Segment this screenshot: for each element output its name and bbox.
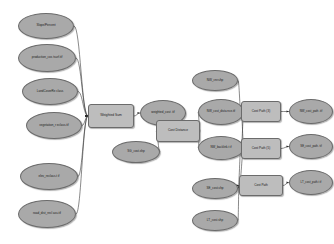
tool-node-n10[interactable]: Cost Distance [156,120,200,142]
connector-n1-to-n7 [74,26,88,116]
node-label: Cost Distance [160,129,197,132]
node-label: Cost Path [243,184,280,187]
node-label: NW_backlink.t if [202,146,241,149]
node-label: NW_cost_dista nce.tif [202,110,241,113]
model-diagram-canvas: Slope/Percentproduction_cos tsurf.tifLan… [0,0,334,244]
node-label: LT_cost_path.t if [293,181,330,184]
connector-n17-to-n20 [281,147,289,149]
data-node-n4[interactable]: vegetation_r eclass.tif [26,112,82,139]
node-label: SE_cost_path. tif [293,145,330,148]
data-node-n1[interactable]: Slope/Percent [18,13,74,39]
data-node-n21[interactable]: LT_cost_path.t if [289,170,333,195]
node-label: Weighted Sum [92,114,131,117]
node-label: road_dist_recl ass.tif [22,212,72,215]
node-label: elev_reclass.t if [24,175,74,178]
data-node-n20[interactable]: SE_cost_path. tif [289,134,333,159]
node-label: LandCoverRe class [26,90,74,93]
data-node-n11[interactable]: NW_cost_dista nce.tif [198,99,244,125]
data-node-n19[interactable]: NW_cost_path .tif [289,99,333,124]
data-node-n2[interactable]: production_cos tsurf.tif [18,44,76,72]
node-label: NW_cnr.shp [196,79,235,82]
data-node-n5[interactable]: elev_reclass.t if [20,163,78,190]
data-node-n14[interactable]: SE_cost.shp [192,178,238,199]
connector-n2-to-n7 [76,58,88,116]
node-label: SE_cost.shp [196,187,235,190]
node-label: vegetation_r eclass.tif [30,124,78,127]
node-label: production_cos tsurf.tif [22,56,72,59]
data-node-n12[interactable]: NW_backlink.t if [198,136,244,160]
data-node-n3[interactable]: LandCoverRe class [22,78,78,105]
node-label: Cost Path (3) [244,110,277,113]
node-label: SG_cost.shp [116,150,156,153]
node-label: LT_cost.shp [196,219,235,222]
tool-node-n17[interactable]: Cost Path (5) [241,138,281,159]
tool-node-n18[interactable]: Cost Path [239,175,283,196]
node-label: Cost Path (5) [244,147,277,150]
node-label: weighted_cost .tif [144,111,183,114]
tool-node-n7[interactable]: Weighted Sum [88,104,134,128]
data-node-n15[interactable]: LT_cost.shp [192,210,238,231]
connector-n3-to-n7 [78,92,88,117]
tool-node-n16[interactable]: Cost Path (3) [241,101,281,122]
data-node-n9[interactable]: SG_cost.shp [112,141,160,163]
node-label: NW_cost_path .tif [293,110,330,113]
node-label: Slope/Percent [22,24,70,27]
data-node-n13[interactable]: NW_cnr.shp [192,70,238,91]
data-node-n6[interactable]: road_dist_recl ass.tif [18,200,76,228]
